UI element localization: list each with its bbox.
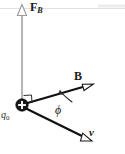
angle-arc-curve bbox=[61, 92, 73, 103]
angle-label-phi: ϕ bbox=[55, 104, 61, 116]
diagram-canvas bbox=[0, 0, 125, 154]
force-vector-arrowhead bbox=[17, 5, 26, 16]
field-vector-label: B bbox=[74, 70, 82, 82]
magnetic-force-diagram: FB B v q0 ϕ bbox=[0, 0, 125, 154]
force-subscript: B bbox=[37, 6, 42, 15]
charge-label: q0 bbox=[1, 110, 10, 122]
velocity-vector-shaft bbox=[25, 108, 82, 136]
force-vector-label: FB bbox=[30, 1, 43, 15]
charge-marker-q0 bbox=[16, 99, 28, 111]
velocity-vector-label: v bbox=[89, 127, 94, 138]
field-vector-b bbox=[24, 84, 94, 104]
field-vector-shaft bbox=[24, 87, 85, 105]
charge-subscript: 0 bbox=[6, 114, 10, 122]
field-vector-arrowhead bbox=[82, 84, 93, 91]
force-vector-fb bbox=[17, 5, 26, 105]
